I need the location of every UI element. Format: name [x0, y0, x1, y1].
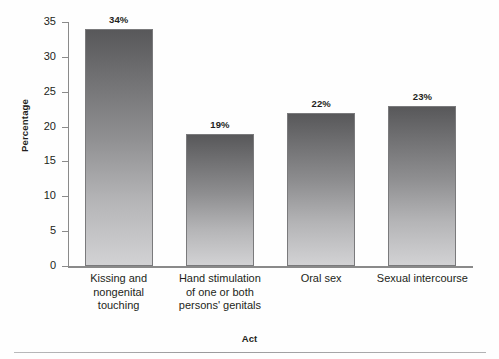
category-label-line: of one or both	[169, 286, 270, 300]
bar	[388, 106, 456, 266]
y-axis-tick-label: 15	[30, 154, 56, 166]
y-axis-tick	[62, 266, 68, 267]
x-axis-category-label: Hand stimulationof one or bothpersons' g…	[169, 272, 270, 313]
bar	[85, 29, 153, 266]
plot-area: 34%19%22%23%	[68, 22, 473, 266]
x-axis-category-label: Kissing andnongenitaltouching	[68, 272, 169, 313]
category-label-line: Kissing and	[68, 272, 169, 286]
category-label-line: Sexual intercourse	[372, 272, 473, 286]
y-axis-tick-label: 25	[30, 85, 56, 97]
bar-value-label: 34%	[85, 14, 153, 25]
bar-chart-figure: 35302520151050 Percentage Act 34%19%22%2…	[0, 0, 499, 359]
x-axis-title: Act	[0, 333, 499, 344]
category-label-line: persons' genitals	[169, 299, 270, 313]
x-axis-category-label: Sexual intercourse	[372, 272, 473, 286]
bar-group: 22%	[287, 22, 355, 266]
y-axis-tick-label: 10	[30, 189, 56, 201]
category-label-line: touching	[68, 299, 169, 313]
y-axis-tick-label: 35	[30, 15, 56, 27]
bar-group: 19%	[186, 22, 254, 266]
y-axis-tick-label: 20	[30, 120, 56, 132]
y-axis-tick-label: 5	[30, 224, 56, 236]
x-axis-line	[68, 266, 473, 268]
category-label-line: Hand stimulation	[169, 272, 270, 286]
bar-group: 23%	[388, 22, 456, 266]
category-label-line: nongenital	[68, 286, 169, 300]
category-label-line: Oral sex	[271, 272, 372, 286]
y-axis-title: Percentage	[19, 99, 30, 152]
bar-value-label: 23%	[388, 91, 456, 102]
bar-value-label: 22%	[287, 98, 355, 109]
footer-divider	[14, 352, 486, 353]
bar	[186, 134, 254, 266]
x-axis-category-label: Oral sex	[271, 272, 372, 286]
bar-group: 34%	[85, 22, 153, 266]
y-axis-tick-label: 0	[30, 259, 56, 271]
bar	[287, 113, 355, 266]
y-axis-tick-label: 30	[30, 50, 56, 62]
bar-value-label: 19%	[186, 119, 254, 130]
